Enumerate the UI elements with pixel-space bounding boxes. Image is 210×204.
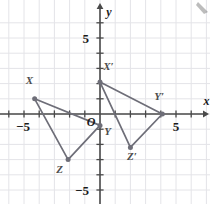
axes-group	[0, 3, 209, 204]
axis-text-labels: xyO−555−5	[16, 5, 209, 198]
grid-lines	[0, 0, 210, 204]
y-tick-label--5: −5	[75, 183, 89, 198]
coordinate-plane-figure: XYZ X′Y′Z′ xyO−555−5	[0, 0, 210, 204]
vertex-label-X: X	[25, 74, 34, 86]
vertex-label-Y-prime: Y′	[154, 90, 164, 102]
vertex-label-Y: Y	[104, 125, 112, 137]
vertex-label-X-prime: X′	[102, 60, 113, 72]
y-axis-label: y	[104, 5, 112, 19]
origin-label: O	[87, 115, 96, 129]
vertex-label-Z: Z	[55, 163, 63, 175]
x-tick-label--5: −5	[16, 119, 30, 134]
x-axis-label: x	[202, 94, 209, 108]
y-tick-label-5: 5	[83, 31, 90, 46]
triangle-x-prime-y-prime-z-prime: X′Y′Z′	[98, 60, 165, 162]
plot-area: XYZ X′Y′Z′ xyO−555−5	[0, 0, 210, 204]
vertex-label-Z-prime: Z′	[126, 150, 137, 162]
x-tick-label-5: 5	[173, 119, 180, 134]
